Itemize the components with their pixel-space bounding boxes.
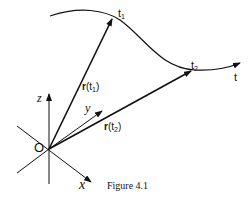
point-label-t2: t2 — [191, 60, 198, 72]
trajectory-curve — [50, 10, 240, 70]
origin-label: O — [34, 141, 44, 154]
vector-label-r-t1: r(t1) — [82, 82, 99, 93]
y-axis — [49, 111, 102, 149]
y-axis-back — [17, 149, 49, 173]
point-label-t1: t1 — [118, 8, 125, 20]
figure-caption: Figure 4.1 — [107, 181, 148, 191]
z-axis-label: z — [37, 92, 42, 104]
x-axis-label: x — [79, 178, 85, 192]
curve-param-label: t — [234, 72, 237, 83]
vector-r-t2 — [49, 71, 191, 149]
y-axis-label: y — [85, 102, 90, 114]
x-axis — [17, 126, 91, 182]
vector-label-r-t2: r(t2) — [104, 122, 121, 133]
vector-r-t1 — [49, 19, 112, 149]
